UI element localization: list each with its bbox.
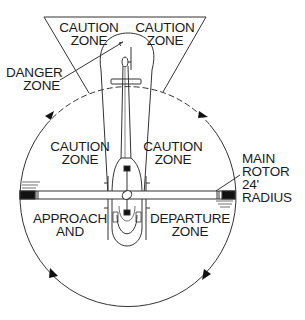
label-line: ZONE	[130, 34, 200, 47]
label-line: ZONE	[54, 34, 124, 47]
label-line: ZONE	[138, 153, 208, 166]
label-line: ZONE	[148, 225, 232, 238]
helicopter-safety-zone-diagram: CAUTION ZONE CAUTION ZONE DANGER ZONE CA…	[0, 0, 305, 320]
label-line: RADIUS	[242, 191, 302, 204]
main-rotor-leader	[216, 175, 240, 191]
caution-zone-mid-right-label: CAUTION ZONE	[138, 140, 208, 166]
caution-zone-top-left-label: CAUTION ZONE	[54, 21, 124, 47]
approach-label: APPROACH AND	[30, 212, 110, 238]
departure-zone-label: DEPARTURE ZONE	[148, 212, 232, 238]
label-line: ZONE	[6, 79, 60, 92]
label-line: AND	[30, 225, 110, 238]
label-line: ZONE	[45, 153, 115, 166]
caution-zone-mid-left-label: CAUTION ZONE	[45, 140, 115, 166]
main-rotor-radius-label: MAIN ROTOR 24' RADIUS	[242, 152, 302, 204]
danger-zone-label: DANGER ZONE	[6, 66, 62, 92]
caution-zone-top-right-label: CAUTION ZONE	[130, 21, 200, 47]
